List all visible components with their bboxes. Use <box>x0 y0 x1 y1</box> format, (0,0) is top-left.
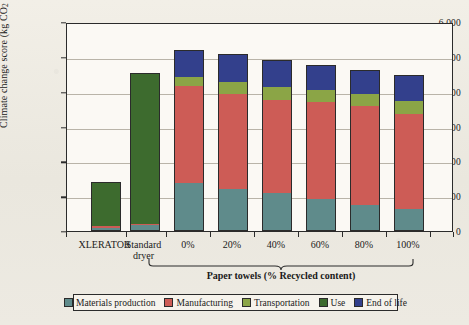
y-axis-tick-label: 0 <box>456 227 461 237</box>
x-axis-tick-mark <box>254 232 255 237</box>
bar-segment-materials-production <box>218 189 248 231</box>
bar-segment-materials-production <box>91 228 121 231</box>
x-axis-tick-label: 100% <box>396 239 419 250</box>
bar-segment-end-of-life <box>218 54 248 82</box>
legend-swatch-icon <box>64 298 73 307</box>
x-axis-tick-label-line: 60% <box>311 239 329 250</box>
bar-segment-end-of-life <box>262 60 292 86</box>
legend-item[interactable]: End of life <box>354 298 407 308</box>
bar-stack[interactable] <box>174 50 204 231</box>
bar-segment-end-of-life <box>394 75 424 101</box>
x-axis-tick-mark <box>66 232 67 237</box>
bar-segment-transportation <box>262 87 292 101</box>
x-axis-tick-mark <box>210 232 211 237</box>
y-axis-title-text: Climate change score (kg CO2 eq.) <box>0 0 9 128</box>
bar-segment-manufacturing <box>174 86 204 183</box>
bar-stack[interactable] <box>262 60 292 231</box>
x-axis-tick-label: 0% <box>181 239 194 250</box>
bar-segment-materials-production <box>350 205 380 231</box>
bar-segment-materials-production <box>306 199 336 231</box>
bar-segment-use <box>91 182 121 226</box>
bar-stack[interactable] <box>218 54 248 231</box>
x-axis-tick-mark <box>386 232 387 237</box>
x-axis-tick-mark <box>166 232 167 237</box>
bar-segment-manufacturing <box>218 94 248 188</box>
x-axis-tick-mark <box>342 232 343 237</box>
x-axis-tick-label-line: Standard <box>126 239 162 250</box>
x-axis-tick-label: 80% <box>355 239 373 250</box>
legend-label: Materials production <box>76 298 155 308</box>
legend-swatch-icon <box>354 298 363 307</box>
legend-label: End of life <box>366 298 407 308</box>
bar-stack[interactable] <box>130 73 160 231</box>
bar-segment-transportation <box>306 90 336 102</box>
legend-label: Transportation <box>254 298 310 308</box>
bar-segment-manufacturing <box>350 106 380 204</box>
figure: Climate change score (kg CO2 eq.) 6,0005… <box>0 0 469 325</box>
x-axis-tick-mark <box>430 232 431 237</box>
x-axis-tick-label: 60% <box>311 239 329 250</box>
bar-segment-transportation <box>350 94 380 106</box>
x-axis-tick-label-line: 40% <box>267 239 285 250</box>
x-axis-tick-label-line: 100% <box>396 239 419 250</box>
y-axis-title: Climate change score (kg CO2 eq.) <box>0 0 10 128</box>
legend-swatch-icon <box>164 298 173 307</box>
bar-segment-end-of-life <box>350 70 380 94</box>
x-axis-tick-mark <box>298 232 299 237</box>
legend-item[interactable]: Transportation <box>242 298 310 308</box>
bar-segment-materials-production <box>262 193 292 231</box>
x-axis-tick-label: 20% <box>223 239 241 250</box>
bar-stack[interactable] <box>91 182 121 231</box>
legend-label: Use <box>331 298 346 308</box>
bar-stack[interactable] <box>394 75 424 231</box>
bar-segment-end-of-life <box>174 50 204 77</box>
x-axis-tick-label-line: 20% <box>223 239 241 250</box>
bar-segment-manufacturing <box>394 114 424 209</box>
bar-segment-manufacturing <box>306 102 336 199</box>
x-axis-tick-label-line: 0% <box>181 239 194 250</box>
x-axis-tick-mark <box>453 232 454 237</box>
legend-item[interactable]: Use <box>319 298 346 308</box>
x-axis-tick-label: 40% <box>267 239 285 250</box>
legend-label: Manufacturing <box>176 298 232 308</box>
bar-segment-materials-production <box>130 225 160 231</box>
legend-swatch-icon <box>242 298 251 307</box>
bar-segment-materials-production <box>394 209 424 231</box>
x-axis-tick-label: XLERATOR <box>78 239 130 250</box>
bar-stack[interactable] <box>350 70 380 231</box>
x-axis-tick-label-line: XLERATOR <box>78 239 130 250</box>
bar-segment-end-of-life <box>306 65 336 90</box>
x-axis-tick-label-line: 80% <box>355 239 373 250</box>
legend-item[interactable]: Manufacturing <box>164 298 232 308</box>
bar-segment-manufacturing <box>262 100 292 193</box>
x-axis-tick-mark <box>126 232 127 237</box>
legend-item[interactable]: Materials production <box>64 298 155 308</box>
gridline <box>67 59 452 60</box>
group-bracket-label: Paper towels (% Recycled content) <box>207 270 356 281</box>
bar-segment-transportation <box>218 82 248 95</box>
legend-swatch-icon <box>319 298 328 307</box>
plot-area <box>66 23 453 232</box>
bar-stack[interactable] <box>306 65 336 231</box>
legend: Materials productionManufacturingTranspo… <box>73 294 398 311</box>
bar-segment-transportation <box>394 101 424 115</box>
bar-segment-use <box>130 73 160 224</box>
bar-segment-transportation <box>174 77 204 87</box>
bar-segment-materials-production <box>174 183 204 231</box>
